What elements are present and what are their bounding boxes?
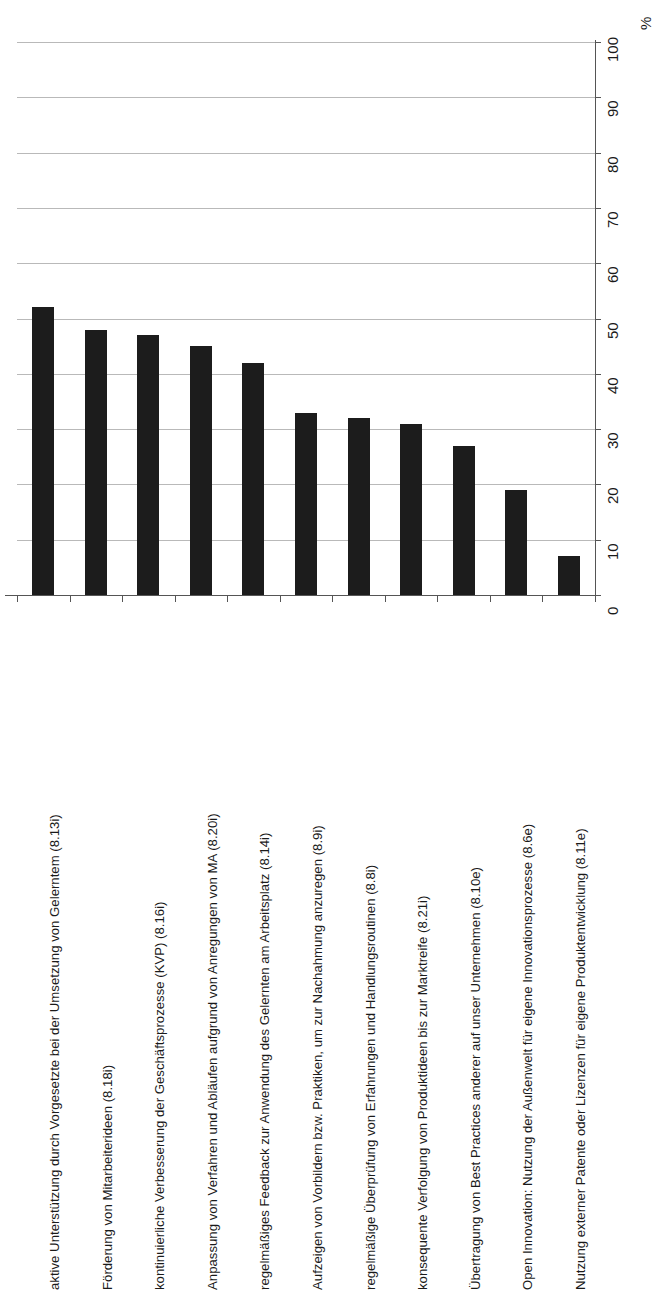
category-axis-line xyxy=(5,595,597,596)
bar xyxy=(242,363,264,595)
category-label: Förderung von Mitarbeiterideen (8.18i) xyxy=(101,1065,116,1290)
category-tick xyxy=(175,596,176,602)
category-tick xyxy=(437,596,438,602)
axis-tick xyxy=(595,208,601,209)
category-label: regelmäßiges Feedback zur Anwendung des … xyxy=(258,833,273,1290)
bar xyxy=(348,418,370,595)
category-tick xyxy=(490,596,491,602)
bar-chart: 0102030405060708090100 % aktive Unterstü… xyxy=(0,0,665,1298)
category-tick xyxy=(280,596,281,602)
bar xyxy=(137,335,159,595)
axis-tick xyxy=(595,263,601,264)
axis-tick-label: 50 xyxy=(604,299,621,339)
axis-tick-label: 20 xyxy=(604,464,621,504)
bar xyxy=(400,424,422,595)
bar xyxy=(295,413,317,595)
axis-tick-label: 10 xyxy=(604,520,621,560)
axis-tick-label: 70 xyxy=(604,188,621,228)
axis-tick-label: 40 xyxy=(604,354,621,394)
axis-tick-label: 0 xyxy=(604,575,621,615)
axis-tick xyxy=(595,429,601,430)
axis-tick xyxy=(595,484,601,485)
category-label: aktive Unterstützung durch Vorgesetzte b… xyxy=(48,814,63,1290)
axis-tick xyxy=(595,42,601,43)
axis-tick-label: 60 xyxy=(604,243,621,283)
axis-tick xyxy=(595,153,601,154)
bar xyxy=(558,556,580,595)
axis-tick-label: 30 xyxy=(604,409,621,449)
bar xyxy=(190,346,212,595)
axis-tick-label: 80 xyxy=(604,133,621,173)
plot-area xyxy=(17,42,595,595)
category-tick xyxy=(595,596,596,602)
category-tick xyxy=(122,596,123,602)
category-label: Nutzung externer Patente oder Lizenzen f… xyxy=(574,828,589,1290)
category-tick xyxy=(385,596,386,602)
category-tick xyxy=(227,596,228,602)
category-label: Anpassung von Verfahren und Abläufen auf… xyxy=(206,813,221,1290)
category-label: regelmäßige Überprüfung von Erfahrungen … xyxy=(364,865,379,1290)
category-label: Übertragung von Best Practices anderer a… xyxy=(469,867,484,1290)
category-tick xyxy=(70,596,71,602)
bars-layer xyxy=(17,42,595,595)
category-label: Aufzeigen von Vorbildern bzw. Praktiken,… xyxy=(311,825,326,1290)
category-label: konsequente Verfolgung von Produktideen … xyxy=(416,896,431,1290)
category-label: kontinuierliche Verbesserung der Geschäf… xyxy=(153,902,168,1291)
axis-tick-label: 100 xyxy=(604,22,621,62)
bar xyxy=(453,446,475,595)
axis-tick xyxy=(595,97,601,98)
bar xyxy=(32,307,54,595)
category-label: Open Innovation: Nutzung der Außenwelt f… xyxy=(521,824,536,1290)
bar xyxy=(505,490,527,595)
axis-tick-label: 90 xyxy=(604,77,621,117)
bar xyxy=(85,330,107,595)
axis-tick xyxy=(595,374,601,375)
axis-tick xyxy=(595,319,601,320)
category-tick xyxy=(332,596,333,602)
axis-unit-label: % xyxy=(637,17,654,30)
category-tick xyxy=(17,596,18,602)
axis-tick xyxy=(595,540,601,541)
category-tick xyxy=(542,596,543,602)
